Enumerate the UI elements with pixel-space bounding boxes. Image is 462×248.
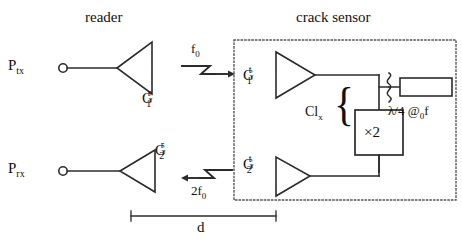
downlink-signal-arrow [181, 170, 232, 182]
reader-tx-amplifier [117, 42, 152, 94]
sensor-input-amplifier [276, 52, 315, 98]
uplink-frequency-sub: 0 [195, 49, 200, 59]
sensor-output-amplifier-label: Gt2 [243, 155, 262, 175]
coupling-capacitance-main: Cl [305, 104, 318, 119]
tx-port-label-sub: tx [16, 65, 24, 76]
sensor-input-amplifier-label: Gt1 [243, 66, 262, 86]
downlink-frequency-sub: 0 [202, 191, 207, 201]
sensor-output-gain-sup: t [249, 153, 252, 164]
reader-rx-amplifier-label: Gr2 [155, 141, 174, 161]
tx-port-terminal [59, 64, 67, 72]
coupling-capacitance-sub: x [318, 112, 323, 122]
frequency-multiplier-label: ×2 [364, 125, 380, 140]
schematic-drawing [0, 0, 462, 248]
resonator-label-main: λ/4 @ [388, 103, 420, 118]
reader-tx-gain-sub: 1 [146, 98, 151, 109]
reader-tx-amplifier-label: Gr1 [142, 89, 161, 109]
rx-port-label: Prx [8, 161, 25, 179]
sensor-input-gain-sub: 1 [247, 75, 252, 86]
coupling-squiggle [379, 73, 400, 102]
sensor-output-amplifier [276, 157, 310, 196]
tx-port-label: Ptx [8, 58, 24, 76]
uplink-frequency-label: f0 [191, 42, 200, 59]
downlink-frequency-label: 2f0 [191, 184, 206, 201]
coupling-brace: { [334, 82, 354, 128]
reader-rx-gain-sub: 2 [159, 150, 164, 161]
sensor-input-gain-sup: t [249, 64, 252, 75]
resonator-label-tail: f [424, 103, 428, 118]
rx-port-label-sub: rx [16, 168, 24, 179]
reader-rx-amplifier [120, 150, 155, 192]
distance-label: d [197, 220, 205, 235]
sensor-output-gain-sub: 2 [247, 164, 252, 175]
uplink-signal-arrow [182, 66, 235, 78]
reader-rx-gain-sup: r [161, 139, 164, 150]
coupling-capacitance-label: Clx [305, 105, 323, 122]
resonator-label: λ/4 @0f [388, 104, 428, 121]
rx-port-terminal [59, 167, 67, 175]
quarter-wave-resonator [400, 78, 452, 96]
diagram-canvas: reader crack sensor Ptx Prx Gr1 Gr2 f0 2… [0, 0, 462, 248]
reader-title: reader [85, 10, 122, 25]
crack-sensor-title: crack sensor [296, 10, 371, 25]
downlink-frequency-main: 2f [191, 183, 202, 198]
reader-tx-gain-sup: r [148, 87, 151, 98]
